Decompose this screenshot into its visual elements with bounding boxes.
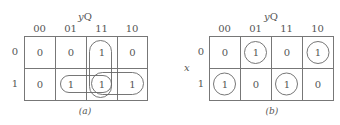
cell-r0-c10: 1 xyxy=(303,37,333,69)
cell-r0-c00: 0 xyxy=(210,37,241,69)
cell-r0-c11: 0 xyxy=(272,37,303,69)
cell-r1-c11: 1 xyxy=(272,69,303,100)
row-header-1: 1 xyxy=(196,78,206,89)
row-variable-label: x xyxy=(184,62,190,73)
column-variable-q: Q xyxy=(270,11,278,22)
caption-b: (b) xyxy=(257,106,287,116)
karnaugh-map-b: yQ 00 01 11 10 x 0 1 0 1 0 1 1 0 1 0 (b) xyxy=(0,0,340,125)
column-header-10: 10 xyxy=(302,23,333,34)
column-variable-label: yQ xyxy=(264,11,278,22)
kmap-grid: 0 1 0 1 1 0 1 0 xyxy=(209,36,334,101)
cell-r1-c10: 0 xyxy=(303,69,333,100)
cell-r1-c01: 0 xyxy=(241,69,272,100)
cell-r0-c01: 1 xyxy=(241,37,272,69)
row-header-0: 0 xyxy=(196,46,206,57)
column-header-00: 00 xyxy=(209,23,240,34)
column-header-11: 11 xyxy=(271,23,302,34)
cell-r1-c00: 1 xyxy=(210,69,241,100)
column-header-01: 01 xyxy=(240,23,271,34)
